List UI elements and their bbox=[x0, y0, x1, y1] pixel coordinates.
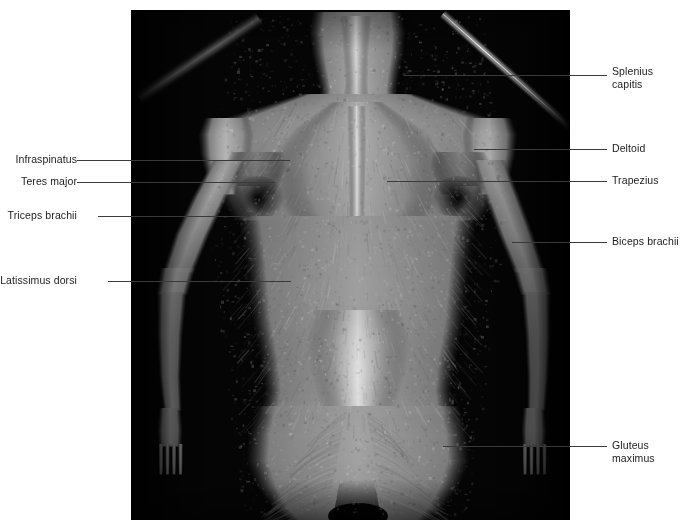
leader-line-biceps-brachii bbox=[512, 242, 607, 243]
cadaver-photograph bbox=[131, 10, 570, 520]
label-gluteus-maximus-text: Gluteus bbox=[612, 439, 649, 451]
label-triceps-brachii-text: Triceps brachii bbox=[8, 209, 77, 221]
label-latissimus-dorsi-text: Latissimus dorsi bbox=[0, 274, 77, 286]
leader-line-gluteus-maximus bbox=[443, 446, 607, 447]
leader-line-triceps-brachii bbox=[98, 216, 250, 217]
leader-line-splenius-capitis bbox=[562, 75, 607, 76]
label-triceps-brachii: Triceps brachii bbox=[8, 209, 77, 222]
leader-line-trapezius bbox=[387, 181, 607, 182]
leader-line-deltoid bbox=[474, 149, 607, 150]
leader-line-latissimus-dorsi bbox=[108, 281, 291, 282]
label-infraspinatus: Infraspinatus bbox=[16, 153, 77, 166]
label-splenius-capitis-text-line2: capitis bbox=[612, 78, 653, 91]
label-splenius-capitis: Splenius capitis bbox=[612, 65, 653, 91]
label-biceps-brachii-text: Biceps brachii bbox=[612, 235, 679, 247]
label-teres-major: Teres major bbox=[21, 175, 77, 188]
label-trapezius-text: Trapezius bbox=[612, 174, 659, 186]
label-gluteus-maximus-text-line2: maximus bbox=[612, 452, 655, 465]
leader-line-teres-major bbox=[77, 182, 275, 183]
label-deltoid-text: Deltoid bbox=[612, 142, 645, 154]
anatomy-figure bbox=[131, 10, 570, 520]
label-gluteus-maximus: Gluteus maximus bbox=[612, 439, 655, 465]
label-trapezius: Trapezius bbox=[612, 174, 659, 187]
label-teres-major-text: Teres major bbox=[21, 175, 77, 187]
label-latissimus-dorsi: Latissimus dorsi bbox=[0, 274, 77, 287]
leader-line-infraspinatus bbox=[77, 160, 290, 161]
label-splenius-capitis-text: Splenius bbox=[612, 65, 653, 77]
label-biceps-brachii: Biceps brachii bbox=[612, 235, 679, 248]
label-infraspinatus-text: Infraspinatus bbox=[16, 153, 77, 165]
label-deltoid: Deltoid bbox=[612, 142, 645, 155]
